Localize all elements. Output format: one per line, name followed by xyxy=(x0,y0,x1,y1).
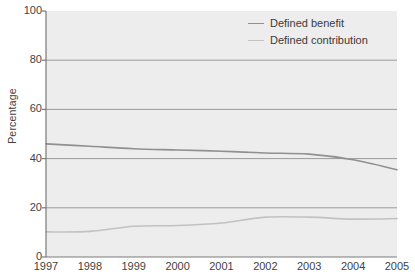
y-axis-tick-labels: 020406080100 xyxy=(0,0,42,279)
x-axis-tick-label: 1997 xyxy=(24,261,68,272)
x-axis-tick-label: 1999 xyxy=(112,261,156,272)
y-axis-tick-label: 60 xyxy=(8,103,42,114)
x-axis-tick-label: 2004 xyxy=(331,261,375,272)
legend-line-swatch-icon xyxy=(248,23,264,24)
plot-background xyxy=(46,11,397,257)
x-axis-tick-label: 1998 xyxy=(68,261,112,272)
y-axis-tick-label: 20 xyxy=(8,202,42,213)
x-axis-tick-label: 2005 xyxy=(375,261,415,272)
legend-line-swatch-icon xyxy=(248,40,264,41)
legend-item-label: Defined benefit xyxy=(270,18,344,29)
legend-item-label: Defined contribution xyxy=(270,35,368,46)
y-axis-tick-label: 100 xyxy=(8,5,42,16)
y-axis-tick-label: 80 xyxy=(8,54,42,65)
x-axis-tick-label: 2001 xyxy=(200,261,244,272)
line-chart: Percentage 020406080100 1997199819992000… xyxy=(0,0,415,279)
legend-item: Defined benefit xyxy=(248,16,368,30)
x-axis-tick-label: 2002 xyxy=(243,261,287,272)
x-axis-tick-label: 2003 xyxy=(287,261,331,272)
chart-legend: Defined benefitDefined contribution xyxy=(248,16,368,47)
legend-item: Defined contribution xyxy=(248,33,368,47)
x-axis-tick-label: 2000 xyxy=(156,261,200,272)
y-axis-tick-label: 40 xyxy=(8,153,42,164)
